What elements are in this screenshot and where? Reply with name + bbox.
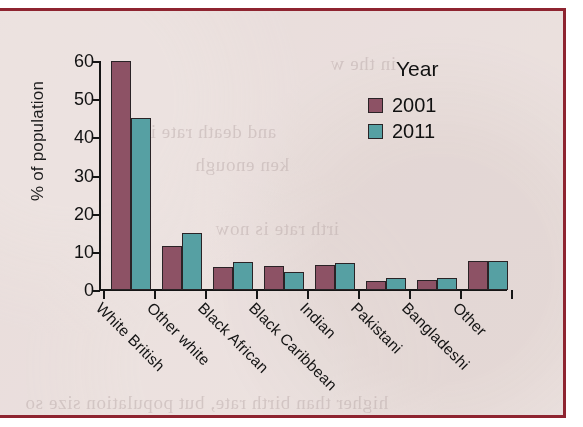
- y-tick-label: 30: [60, 166, 94, 187]
- y-tick-label: 0: [60, 280, 94, 301]
- x-tick-mark: [358, 290, 360, 299]
- x-tick-mark: [256, 290, 258, 299]
- x-tick-label: Other: [449, 299, 490, 340]
- bar-2011-white-british: [131, 118, 151, 290]
- bar-2011-bangladeshi: [437, 278, 457, 290]
- legend-title: Year: [396, 57, 518, 81]
- bar-group: [213, 61, 253, 290]
- bar-group: [315, 61, 355, 290]
- population-ethnicity-bar-chart: % of population 0102030405060 White Brit…: [0, 11, 566, 421]
- legend-swatch-2011: [368, 124, 383, 139]
- bar-2011-other: [488, 261, 508, 290]
- y-tick-mark: [93, 252, 100, 254]
- y-tick-label: 20: [60, 204, 94, 225]
- x-tick-mark: [511, 290, 513, 299]
- legend-entries: 20012011: [368, 94, 518, 143]
- y-tick-mark: [93, 61, 100, 63]
- legend-item-2001: 2001: [368, 94, 518, 117]
- bar-2001-bangladeshi: [417, 280, 437, 290]
- bar-2011-other-white: [182, 233, 202, 290]
- x-tick-label: Indian: [296, 299, 339, 342]
- bar-2001-black-caribbean: [264, 266, 284, 290]
- y-tick-mark: [93, 290, 100, 292]
- bar-2001-black-african: [213, 267, 233, 290]
- legend-label-2001: 2001: [392, 94, 437, 117]
- bar-2011-pakistani: [386, 278, 406, 290]
- x-tick-mark: [103, 290, 105, 299]
- y-tick-label: 10: [60, 242, 94, 263]
- y-tick-label: 40: [60, 127, 94, 148]
- bar-2001-other-white: [162, 246, 182, 290]
- x-tick-mark: [307, 290, 309, 299]
- page-root: in the w and death rate in ken enough ir…: [0, 0, 583, 427]
- x-tick-mark: [205, 290, 207, 299]
- x-tick-label: Pakistani: [347, 299, 405, 357]
- y-tick-label: 50: [60, 89, 94, 110]
- x-tick-mark: [460, 290, 462, 299]
- bar-2001-other: [468, 261, 488, 290]
- y-tick-mark: [93, 176, 100, 178]
- y-tick-mark: [93, 214, 100, 216]
- y-tick-label: 60: [60, 51, 94, 72]
- bar-2011-black-caribbean: [284, 272, 304, 290]
- bar-2001-white-british: [111, 61, 131, 290]
- bar-group: [264, 61, 304, 290]
- legend-label-2011: 2011: [392, 120, 435, 143]
- y-axis-label: % of population: [28, 66, 48, 216]
- bar-2001-indian: [315, 265, 335, 290]
- scanned-page-panel: in the w and death rate in ken enough ir…: [0, 8, 566, 418]
- bar-2011-indian: [335, 263, 355, 290]
- y-tick-mark: [93, 99, 100, 101]
- y-axis-tick-labels: 0102030405060: [58, 11, 94, 421]
- x-tick-label: Black Caribbean: [245, 299, 340, 394]
- legend-swatch-2001: [368, 98, 383, 113]
- x-tick-mark: [154, 290, 156, 299]
- bar-group: [162, 61, 202, 290]
- x-tick-mark: [409, 290, 411, 299]
- legend-item-2011: 2011: [368, 120, 518, 143]
- bar-group: [111, 61, 151, 290]
- bar-2011-black-african: [233, 262, 253, 290]
- y-tick-mark: [93, 137, 100, 139]
- bar-2001-pakistani: [366, 281, 386, 290]
- chart-legend: Year 20012011: [368, 57, 518, 146]
